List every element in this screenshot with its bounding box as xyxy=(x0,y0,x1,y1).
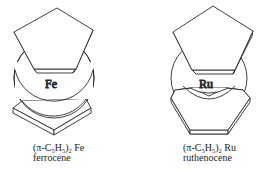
ruthenocene-name: ruthenocene xyxy=(183,153,236,163)
ferrocene-name: ferrocene xyxy=(33,153,84,163)
ferrocene-structure: Fe xyxy=(13,8,94,135)
fe-label: Fe xyxy=(45,77,57,91)
ruthenocene-structure: Ru xyxy=(171,6,253,134)
ruthenocene-caption: (π-C5H5)2 Ru ruthenocene xyxy=(183,143,236,163)
ru-label: Ru xyxy=(199,77,213,91)
ferrocene-caption: (π-C5H5)2 Fe ferrocene xyxy=(33,143,84,163)
ruthenocene-bottom-ring xyxy=(171,88,250,134)
